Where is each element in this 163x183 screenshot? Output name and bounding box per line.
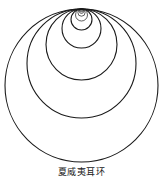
earring-circle xyxy=(5,9,158,162)
earring-circle xyxy=(46,9,117,80)
earring-circle xyxy=(81,9,83,11)
earring-circle xyxy=(62,9,101,48)
earring-circle xyxy=(78,9,85,16)
figure-caption: 夏威夷耳环 xyxy=(0,165,163,178)
hawaiian-earring-diagram xyxy=(0,0,163,163)
earring-circle xyxy=(27,9,136,118)
earring-circle xyxy=(71,9,92,30)
